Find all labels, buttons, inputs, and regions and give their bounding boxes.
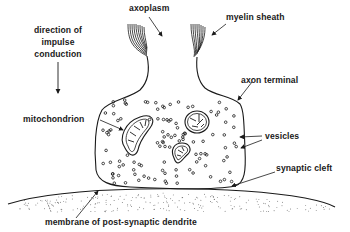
vesicle: [124, 182, 127, 185]
stipple-dot: [220, 207, 221, 208]
label-axoplasm: axoplasm: [129, 3, 169, 14]
vesicle: [229, 171, 232, 174]
mitochondrion-3: [172, 143, 190, 163]
stipple-dot: [180, 209, 181, 210]
stipple-dot: [259, 207, 260, 208]
vesicle: [156, 108, 159, 111]
stipple-dot: [218, 206, 219, 207]
stipple-dot: [184, 210, 185, 211]
stipple-dot: [50, 211, 51, 212]
stipple-dot: [49, 208, 50, 209]
vesicle: [210, 110, 213, 113]
stipple-dot: [50, 201, 51, 202]
stipple-dot: [241, 208, 242, 209]
stipple-dot: [267, 199, 268, 200]
stipple-dot: [61, 209, 62, 210]
stipple-dot: [197, 210, 198, 211]
stipple-dot: [265, 203, 266, 204]
stipple-dot: [258, 204, 259, 205]
vesicle: [162, 105, 165, 108]
stipple-dot: [53, 206, 54, 207]
stipple-dot: [45, 200, 46, 201]
vesicle: [106, 131, 109, 134]
stipple-dot: [158, 196, 159, 197]
stipple-dot: [44, 208, 45, 209]
vesicle: [178, 140, 181, 143]
stipple-dot: [99, 202, 100, 203]
synaptic-cleft-pointer: [232, 172, 275, 186]
stipple-dot: [167, 202, 168, 203]
vesicle: [212, 133, 215, 136]
stipple-dot: [29, 209, 30, 210]
vesicle: [118, 160, 121, 163]
stipple-dot: [248, 200, 249, 201]
vesicle: [204, 164, 207, 167]
stipple-dot: [141, 197, 142, 198]
stipple-dot: [49, 208, 50, 209]
label-myelin-sheath: myelin sheath: [226, 12, 285, 23]
vesicle: [233, 142, 236, 145]
stipple-dot: [263, 211, 264, 212]
stipple-dot: [305, 205, 306, 206]
stipple-dot: [25, 203, 26, 204]
vesicle: [147, 177, 150, 180]
vesicle: [109, 161, 112, 164]
vesicle: [176, 127, 179, 130]
vesicle: [138, 179, 141, 182]
stipple-dot: [231, 197, 232, 198]
stipple-dot: [105, 211, 106, 212]
label-axon-terminal: axon terminal: [241, 75, 298, 86]
stipple-dot: [200, 200, 201, 201]
stipple-dot: [95, 211, 96, 212]
stipple-dot: [198, 204, 199, 205]
vesicle: [200, 152, 203, 155]
stipple-dot: [42, 200, 43, 201]
vesicle: [167, 134, 170, 137]
vesicle: [113, 182, 116, 185]
stipple-dot: [203, 206, 204, 207]
vesicle: [176, 182, 179, 185]
stipple-dot: [274, 210, 275, 211]
stipple-dot: [138, 195, 139, 196]
vesicle: [169, 103, 172, 106]
stipple-dot: [217, 202, 218, 203]
stipple-dot: [131, 200, 132, 201]
stipple-dot: [225, 211, 226, 212]
stipple-dot: [324, 209, 325, 210]
stipple-dot: [95, 204, 96, 205]
vesicle: [235, 145, 238, 148]
stipple-dot: [193, 204, 194, 205]
stipple-dot: [192, 203, 193, 204]
stipple-dot: [163, 202, 164, 203]
stipple-dot: [40, 200, 41, 201]
stipple-dot: [122, 202, 123, 203]
vesicle: [164, 145, 167, 148]
post-synaptic-membrane: [8, 189, 335, 207]
vesicle: [198, 157, 201, 160]
stipple-dot: [289, 211, 290, 212]
vesicle: [164, 172, 167, 175]
stipple-dot: [143, 208, 144, 209]
stipple-dot: [154, 205, 155, 206]
stipple-dot: [65, 202, 66, 203]
vesicle: [143, 175, 146, 178]
stipple-dot: [240, 209, 241, 210]
stipple-dot: [82, 208, 83, 209]
stipple-dot: [95, 197, 96, 198]
stipple-dot: [138, 194, 139, 195]
stipple-dot: [27, 205, 28, 206]
stipple-dot: [131, 206, 132, 207]
stipple-dot: [188, 194, 189, 195]
stipple-dot: [57, 211, 58, 212]
stipple-dot: [175, 202, 176, 203]
vesicle: [192, 172, 195, 175]
stipple-dot: [224, 195, 225, 196]
vesicle: [132, 169, 135, 172]
stipple-dot: [282, 202, 283, 203]
stipple-dot: [210, 196, 211, 197]
stipple-dot: [52, 205, 53, 206]
stipple-dot: [269, 201, 270, 202]
vesicle: [154, 178, 157, 181]
stipple-dot: [83, 206, 84, 207]
stipple-dot: [127, 205, 128, 206]
